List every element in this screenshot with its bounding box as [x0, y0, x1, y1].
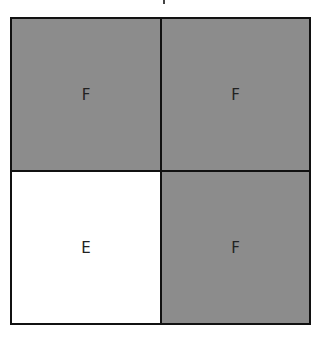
grid-diagram: F F E F — [10, 17, 311, 325]
cell-label: F — [82, 86, 91, 104]
cell-label: E — [81, 239, 90, 257]
cell-top-left: F — [12, 19, 162, 172]
cell-bottom-left: E — [12, 172, 162, 323]
cell-bottom-right: F — [162, 172, 309, 323]
cell-label: F — [231, 86, 240, 104]
cell-label: F — [231, 239, 240, 257]
cell-top-right: F — [162, 19, 309, 172]
truncated-caption-fragment — [163, 0, 165, 4]
